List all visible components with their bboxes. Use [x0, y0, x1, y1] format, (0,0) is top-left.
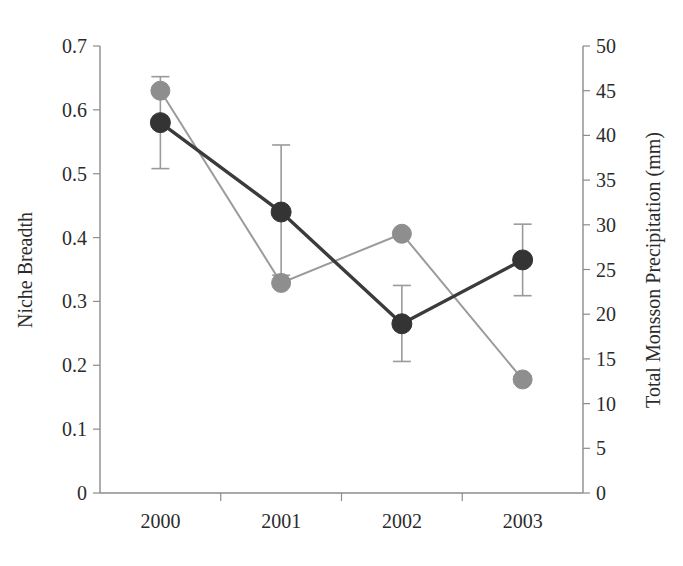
left-tick-label: 0.5 [62, 163, 87, 185]
precipitation-point [272, 273, 291, 292]
precipitation-point [151, 81, 170, 100]
precipitation-point [392, 224, 411, 243]
x-tick-label: 2003 [503, 510, 543, 532]
left-tick-label: 0 [77, 482, 87, 504]
left-tick-label: 0.7 [62, 35, 87, 57]
right-tick-label: 15 [596, 348, 616, 370]
x-tick-label: 2001 [261, 510, 301, 532]
right-tick-label: 25 [596, 259, 616, 281]
left-tick-label: 0.4 [62, 227, 87, 249]
niche-breadth-line [160, 123, 522, 324]
right-tick-label: 5 [596, 437, 606, 459]
data-series-group [150, 77, 532, 389]
right-tick-label: 40 [596, 124, 616, 146]
right-axis: 05101520253035404550 [583, 35, 616, 504]
x-axis: 2000200120022003 [100, 493, 583, 532]
niche-breadth-point [271, 202, 291, 222]
x-tick-label: 2000 [140, 510, 180, 532]
right-tick-label: 50 [596, 35, 616, 57]
x-tick-label: 2002 [382, 510, 422, 532]
left-axis-title: Niche Breadth [14, 212, 36, 328]
right-tick-label: 45 [596, 80, 616, 102]
right-tick-label: 30 [596, 214, 616, 236]
precipitation-point [513, 370, 532, 389]
left-tick-label: 0.2 [62, 354, 87, 376]
right-axis-title: Total Monsson Precipitation (mm) [642, 132, 665, 408]
chart-svg: 00.10.20.30.40.50.60.7 05101520253035404… [0, 0, 683, 566]
right-tick-label: 35 [596, 169, 616, 191]
right-tick-label: 10 [596, 393, 616, 415]
niche-breadth-point [513, 250, 533, 270]
left-axis: 00.10.20.30.40.50.60.7 [62, 35, 100, 504]
niche-breadth-point [150, 113, 170, 133]
left-tick-label: 0.3 [62, 290, 87, 312]
right-tick-label: 20 [596, 303, 616, 325]
chart-figure: 00.10.20.30.40.50.60.7 05101520253035404… [0, 0, 683, 566]
precipitation-line [160, 91, 522, 380]
left-tick-label: 0.6 [62, 99, 87, 121]
right-tick-label: 0 [596, 482, 606, 504]
niche-breadth-point [392, 314, 412, 334]
left-tick-label: 0.1 [62, 418, 87, 440]
